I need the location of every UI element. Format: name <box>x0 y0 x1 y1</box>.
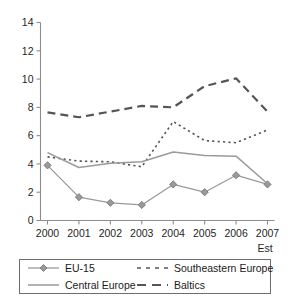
chart-legend: EU-15 Southeastern Europe Central Europe <box>19 259 271 294</box>
y-tick-label: 12 <box>22 45 34 57</box>
plot-svg: 02468101214 2000200120022003200420052006… <box>0 0 290 250</box>
y-tick-label: 4 <box>28 158 34 170</box>
x-tick-label: 2004 <box>162 227 186 239</box>
legend-swatch-southeastern-europe-icon <box>136 262 169 274</box>
series-baltics <box>48 78 268 117</box>
y-tick-label: 0 <box>28 214 34 226</box>
series-southeastern-europe <box>48 122 268 167</box>
data-point-marker <box>232 172 239 179</box>
y-tick-label: 8 <box>28 101 34 113</box>
legend-label-central-europe: Central Europe <box>65 279 136 291</box>
x-axis-tick-labels: 20002001200220032004200520062007 <box>36 227 280 239</box>
series-eu-15 <box>44 162 271 209</box>
x-axis-estimate-note: Est <box>258 242 273 254</box>
y-axis-tick-labels: 02468101214 <box>22 16 34 226</box>
x-tick-label: 2005 <box>193 227 217 239</box>
legend-item-baltics[interactable]: Baltics <box>132 277 272 294</box>
y-axis-tick-marks <box>37 23 41 221</box>
series-line <box>48 78 268 117</box>
data-series-layer <box>44 78 271 208</box>
x-tick-label: 2001 <box>67 227 91 239</box>
series-line <box>48 152 268 184</box>
legend-label-southeastern-europe: Southeastern Europe <box>174 262 273 274</box>
y-tick-label: 14 <box>22 16 34 28</box>
y-tick-label: 6 <box>28 129 34 141</box>
legend-label-eu-15: EU-15 <box>65 262 95 274</box>
x-tick-label: 2006 <box>224 227 248 239</box>
data-point-marker <box>170 181 177 188</box>
legend-swatch-baltics-icon <box>136 279 169 291</box>
series-central-europe <box>48 152 268 184</box>
plot-area: 02468101214 2000200120022003200420052006… <box>0 0 290 250</box>
legend-label-baltics: Baltics <box>174 279 205 291</box>
legend-swatch-eu-15-icon <box>27 262 60 274</box>
data-point-marker <box>107 199 114 206</box>
legend-item-eu-15[interactable]: EU-15 <box>20 260 132 277</box>
x-tick-label: 2000 <box>36 227 60 239</box>
y-tick-label: 10 <box>22 73 34 85</box>
x-tick-label: 2007 <box>256 227 280 239</box>
x-tick-label: 2003 <box>130 227 154 239</box>
data-point-marker <box>201 189 208 196</box>
legend-item-southeastern-europe[interactable]: Southeastern Europe <box>132 260 272 277</box>
data-point-marker <box>138 201 145 208</box>
x-tick-label: 2002 <box>99 227 123 239</box>
line-chart: 02468101214 2000200120022003200420052006… <box>0 0 290 305</box>
legend-swatch-central-europe-icon <box>27 279 60 291</box>
legend-item-central-europe[interactable]: Central Europe <box>20 277 132 294</box>
series-line <box>48 122 268 167</box>
x-axis-tick-marks <box>48 221 268 225</box>
y-tick-label: 2 <box>28 186 34 198</box>
